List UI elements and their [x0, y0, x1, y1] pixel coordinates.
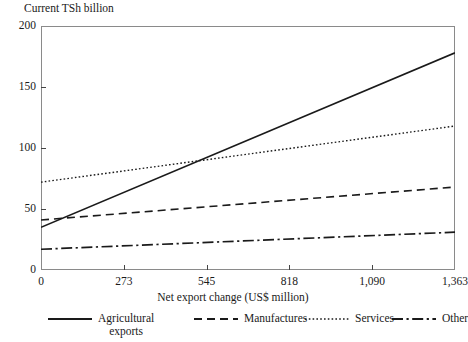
x-tick-label: 1,363 [442, 275, 468, 287]
series-line-other [41, 232, 455, 249]
legend-item[interactable]: Agricultural exports [48, 312, 154, 338]
x-tick-mark [372, 265, 373, 270]
x-tick-mark [207, 265, 208, 270]
legend-swatch-dotted-icon [305, 312, 349, 326]
legend-item[interactable]: Manufactures [194, 312, 307, 326]
series-line-services [41, 126, 455, 182]
x-axis-title: Net export change (US$ million) [0, 291, 466, 303]
plot-lines [41, 26, 455, 270]
legend-item[interactable]: Other [392, 312, 468, 326]
y-tick-label: 100 [0, 142, 36, 154]
legend-label: Services [355, 312, 394, 325]
y-tick-mark [41, 209, 46, 210]
series-line-agricultural-exports [41, 53, 455, 227]
x-tick-label: 545 [198, 275, 215, 287]
y-tick-label: 50 [0, 203, 36, 215]
y-tick-label: 200 [0, 20, 36, 32]
legend-label: Manufactures [244, 312, 307, 325]
legend-swatch-solid-icon [48, 312, 92, 326]
y-tick-label: 0 [0, 264, 36, 276]
series-line-manufactures [41, 187, 455, 220]
x-tick-mark [289, 265, 290, 270]
legend-item[interactable]: Services [305, 312, 394, 326]
legend-swatch-dashed-icon [194, 312, 238, 326]
y-tick-mark [41, 87, 46, 88]
x-tick-mark [124, 265, 125, 270]
x-tick-label: 0 [38, 275, 44, 287]
x-tick-label: 273 [115, 275, 132, 287]
x-tick-label: 818 [281, 275, 298, 287]
legend-swatch-dashdot-icon [392, 312, 436, 326]
y-axis-title: Current TSh billion [24, 1, 114, 15]
legend-label: Agricultural exports [98, 312, 154, 338]
chart-legend: Agricultural exportsManufacturesServices… [0, 312, 466, 342]
y-tick-label: 150 [0, 81, 36, 93]
x-tick-label: 1,090 [359, 275, 385, 287]
y-tick-mark [41, 148, 46, 149]
legend-label: Other [442, 312, 468, 325]
